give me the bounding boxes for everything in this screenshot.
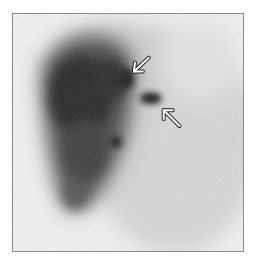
noise-texture	[13, 14, 243, 251]
figure	[0, 0, 255, 262]
scan-image	[13, 14, 243, 251]
scintigraphy-scan	[12, 13, 244, 252]
